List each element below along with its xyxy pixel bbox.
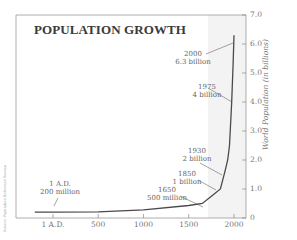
x-axis-ticks [53, 214, 234, 218]
annotation-label: 1650500 million [145, 186, 189, 202]
source-note: Source: Population Reference Bureau [3, 165, 7, 232]
annotation-label: 19302 billion [175, 147, 219, 163]
x-tick-label: 2000 [224, 220, 243, 229]
y-tick-label: 4.0 [250, 97, 262, 106]
y-tick-label: 0 [250, 213, 255, 222]
x-tick-label: 1 A.D. [41, 220, 64, 229]
y-axis-label: World Population (in billions) [261, 39, 270, 150]
x-tick-label: 1000 [134, 220, 153, 229]
y-tick-label: 3.0 [250, 126, 262, 135]
annotation-label: 19754 billion [185, 83, 229, 99]
y-tick-label: 1.0 [250, 184, 262, 193]
y-tick-label: 5.0 [250, 68, 262, 77]
y-tick-label: 2.0 [250, 155, 262, 164]
y-tick-label: 6.0 [250, 39, 262, 48]
chart-title: POPULATION GROWTH [34, 22, 186, 38]
annotation-label: 1 A.D.200 million [38, 180, 82, 196]
x-tick-label: 500 [91, 220, 105, 229]
annotation-label: 20006.3 billion [171, 50, 215, 66]
y-tick-label: 7.0 [250, 10, 262, 19]
x-tick-label: 1500 [179, 220, 198, 229]
annotation-label: 18501 billion [165, 170, 209, 186]
